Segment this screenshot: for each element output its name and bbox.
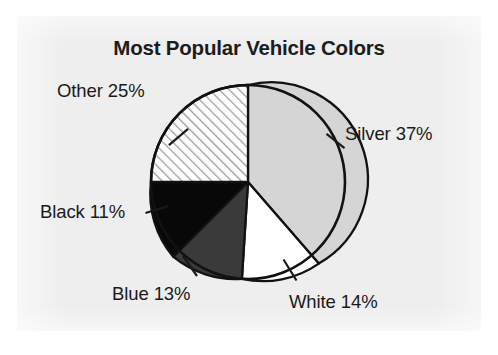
figure-container: Most Popular Vehicle Colors Other 25% Si… <box>0 0 498 355</box>
pie-label-silver: Silver 37% <box>345 123 432 145</box>
pie-slice-other <box>151 85 248 182</box>
pie-label-black: Black 11% <box>40 201 125 223</box>
pie-label-other: Other 25% <box>57 80 145 102</box>
pie-label-white: White 14% <box>289 291 378 313</box>
pie-label-blue: Blue 13% <box>112 283 190 305</box>
pie-chart <box>0 0 498 355</box>
